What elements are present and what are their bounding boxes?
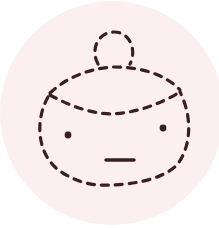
right-eye	[160, 125, 167, 132]
avatar-illustration: Dashed-line character face with a hair b…	[0, 0, 219, 228]
face-icon	[0, 0, 219, 228]
left-eye	[65, 132, 72, 139]
